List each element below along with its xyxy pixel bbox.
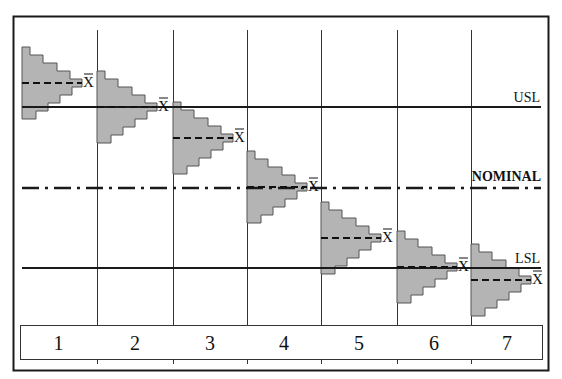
lsl-label: LSL [515, 251, 540, 266]
sample-number-1: 1 [54, 332, 64, 354]
diagram-canvas: XXXXXXXUSLNOMINALLSL 1234567 [0, 0, 562, 379]
sample-number-4: 4 [279, 332, 289, 354]
mean-symbol-label: X [382, 229, 393, 245]
sample-number-6: 6 [429, 332, 439, 354]
mean-symbol-label: X [158, 98, 169, 114]
nominal-label: NOMINAL [472, 169, 541, 184]
mean-symbol-label: X [308, 178, 319, 194]
mean-symbol-label: X [532, 271, 543, 287]
histograms [22, 47, 531, 316]
usl-label: USL [514, 90, 540, 105]
sample-number-7: 7 [502, 332, 512, 354]
sample-number-3: 3 [205, 332, 215, 354]
mean-symbol-label: X [458, 258, 469, 274]
sample-number-2: 2 [130, 332, 140, 354]
sample-number-5: 5 [354, 332, 364, 354]
mean-symbol-label: X [234, 129, 245, 145]
control-chart-diagram: XXXXXXXUSLNOMINALLSL 1234567 [0, 0, 562, 379]
mean-symbol-label: X [83, 74, 94, 90]
